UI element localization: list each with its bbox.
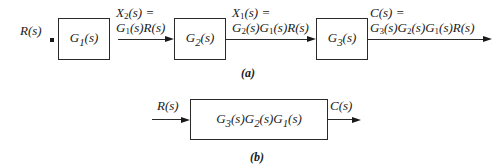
block-combined: G3(s)G2(s)G1(s) [190,99,328,140]
output-line-b [328,119,354,120]
block-g2-label: G2(s) [186,30,215,48]
signal-x1-label-2: G2(s)G1(s)R(s) [232,21,309,38]
block-g2: G2(s) [174,18,226,60]
arrowhead-g3 [307,36,316,42]
connector-g1-g2 [118,39,166,40]
arrowhead-g2 [165,36,174,42]
input-arrow-tip [50,38,54,42]
input-label-r: R(s) [20,24,42,38]
input-label-r-b: R(s) [157,99,179,113]
arrowhead-input-b [181,117,190,123]
output-line-a [368,39,484,40]
caption-a: (a) [241,66,255,81]
block-g3: G3(s) [316,18,368,60]
signal-c-label-2: G3(s)G2(s)G1(s)R(s) [370,21,475,38]
signal-c-label-1: C(s) = [370,6,404,20]
caption-b: (b) [250,150,264,165]
connector-g2-g3 [226,39,308,40]
output-label-c-b: C(s) [330,99,352,113]
arrowhead-output-b [352,117,361,123]
block-g1-label: G1(s) [70,30,99,48]
arrowhead-output-a [483,36,492,42]
signal-x2-label-2: G1(s)R(s) [116,21,165,38]
block-g3-label: G3(s) [328,30,357,48]
block-combined-label: G3(s)G2(s)G1(s) [216,111,302,129]
input-line-b [152,119,182,120]
block-g1: G1(s) [58,18,110,60]
